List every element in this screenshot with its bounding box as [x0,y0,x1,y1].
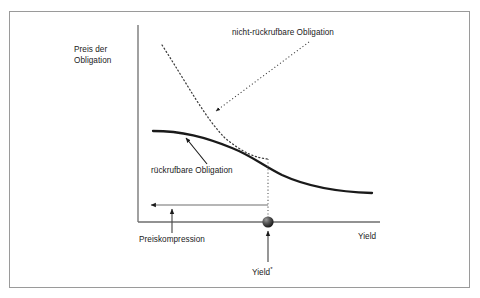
noncallable-leader-line [216,42,309,111]
yield-star-label: Yield* [252,264,273,278]
callable-leader-line [186,138,207,164]
noncallable-bond-label: nicht-rückrufbare Obligation [232,28,334,39]
yield-star-text: Yield [252,268,270,277]
figure-canvas [0,0,480,298]
y-axis-label: Preis der Obligation [74,45,111,66]
callable-bond-label: rückrufbare Obligation [151,166,233,177]
figure-page: Preis der Obligation nicht-rückrufbare O… [0,0,480,298]
yield-star-asterisk: * [270,266,272,272]
curve-callable-bond [153,131,372,193]
yield-star-marker [262,216,273,227]
x-axis-label: Yield [358,232,376,243]
price-compression-label: Preiskompression [139,235,205,246]
